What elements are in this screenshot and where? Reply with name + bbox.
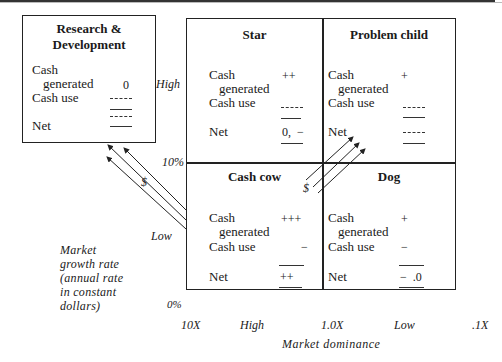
flow-label-problem-child: $ xyxy=(303,181,309,196)
arrow-cashcow-to-rd-2 xyxy=(108,145,186,220)
arrow-cashcow-to-problemchild-3 xyxy=(318,149,365,193)
arrow-cashcow-to-problemchild-1 xyxy=(306,137,353,180)
arrow-cashcow-to-rd-3 xyxy=(107,157,186,229)
flow-label-rd: $ xyxy=(141,175,147,190)
cash-flow-arrows xyxy=(0,0,502,362)
arrow-cashcow-to-problemchild-2 xyxy=(313,143,359,187)
